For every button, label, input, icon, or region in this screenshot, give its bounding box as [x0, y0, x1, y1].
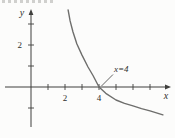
figure-svg: y x 2 4 2 x=4 [0, 0, 175, 138]
y-axis-label: y [19, 7, 25, 18]
annotation-leader-line [102, 75, 114, 87]
y-tick-label: 2 [18, 40, 23, 50]
x-axis-arrow-icon [165, 85, 171, 90]
curve [68, 10, 163, 115]
x-axis-label: x [163, 90, 169, 101]
x-tick-label: 2 [63, 93, 68, 103]
y-axis-arrow-icon [29, 9, 34, 15]
annotation-label: x=4 [113, 64, 129, 74]
function-graph-figure: y x 2 4 2 x=4 [0, 0, 175, 138]
x-tick-label: 4 [97, 93, 102, 103]
